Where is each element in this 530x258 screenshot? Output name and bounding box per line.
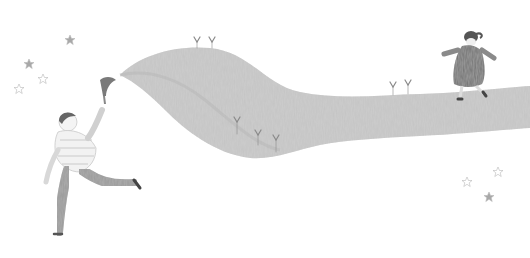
- star-icon: [484, 192, 494, 202]
- walking-girl: [444, 31, 494, 99]
- stars-left: [14, 35, 75, 94]
- sprout-icon: [405, 80, 411, 94]
- sprout-icon: [194, 37, 200, 48]
- running-boy: [46, 77, 140, 234]
- star-icon: [38, 74, 48, 84]
- stars-right: [462, 167, 503, 202]
- star-icon: [65, 35, 75, 45]
- star-icon: [462, 177, 472, 187]
- star-icon: [493, 167, 503, 177]
- sprout-icon: [390, 82, 396, 95]
- illustration-scene: [0, 0, 530, 258]
- star-icon: [24, 59, 34, 69]
- star-icon: [14, 84, 24, 94]
- sprout-icon: [209, 37, 215, 48]
